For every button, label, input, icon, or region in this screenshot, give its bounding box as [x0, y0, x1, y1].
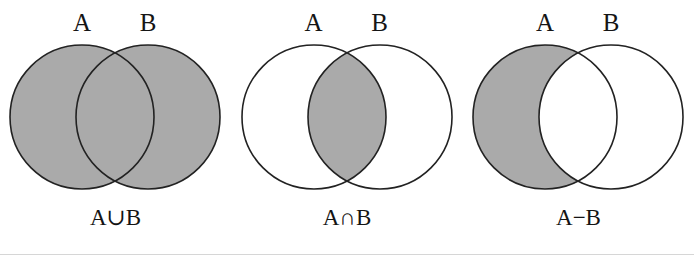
venn-panel-intersection: A B A∩B: [232, 0, 463, 246]
venn-svg-intersection: [232, 0, 463, 200]
caption-intersection: A∩B: [232, 206, 463, 229]
venn-svg-difference: [463, 0, 694, 200]
set-label-b-intersection: B: [365, 10, 395, 35]
set-label-b-union: B: [133, 10, 163, 35]
set-label-a-intersection: A: [299, 10, 329, 35]
venn-diagram-figure: A B A∪B A B A∩B: [0, 0, 694, 261]
set-label-a-difference: A: [530, 10, 560, 35]
set-label-a-union: A: [67, 10, 97, 35]
venn-svg-union: [0, 0, 231, 200]
venn-panel-difference: A B A−B: [463, 0, 694, 246]
set-label-b-difference: B: [596, 10, 626, 35]
bottom-divider: [0, 254, 694, 255]
caption-union: A∪B: [0, 206, 231, 229]
caption-difference: A−B: [463, 206, 694, 229]
venn-panel-row: A B A∪B A B A∩B: [0, 0, 694, 246]
venn-panel-union: A B A∪B: [0, 0, 231, 246]
